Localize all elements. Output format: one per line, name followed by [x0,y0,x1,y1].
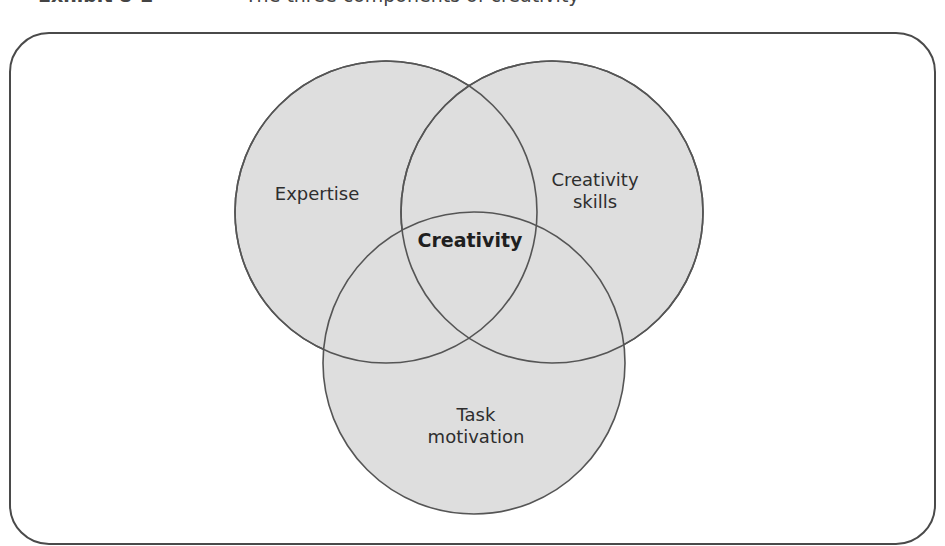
venn-diagram [0,0,945,546]
label-expertise: Expertise [275,183,359,205]
creativity-center-text: Creativity [418,229,523,251]
label-creativity-center: Creativity [418,229,523,251]
creativity-skills-line1: Creativity [551,169,638,191]
task-motivation-line1: Task [428,404,525,426]
label-creativity-skills: Creativity skills [551,169,638,213]
task-motivation-line2: motivation [428,426,525,448]
circle-task-motivation [323,212,625,514]
expertise-text: Expertise [275,183,359,204]
label-task-motivation: Task motivation [428,404,525,448]
creativity-skills-line2: skills [551,191,638,213]
